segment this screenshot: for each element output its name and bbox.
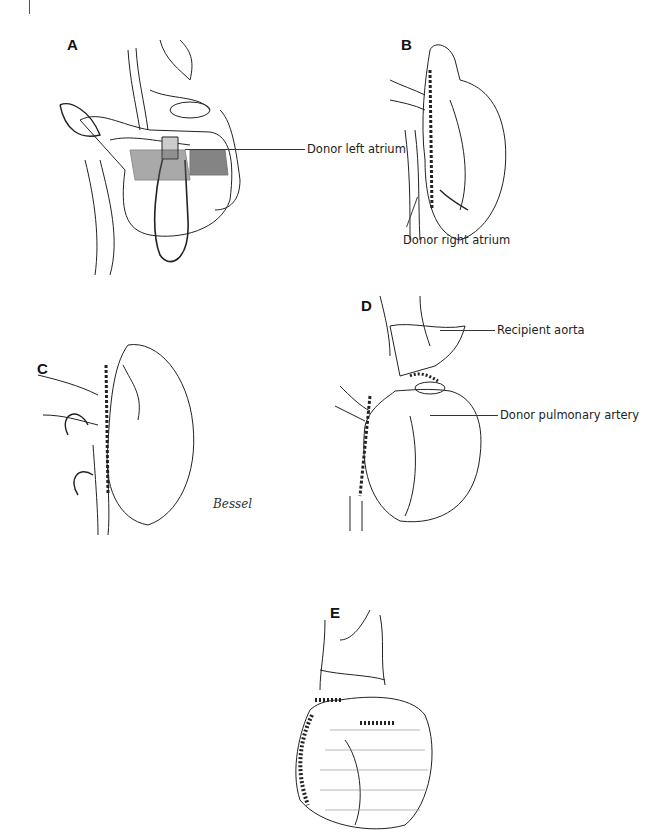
- leader-line-donor-pulmonary-artery: [430, 415, 498, 416]
- artist-signature: Bessel: [213, 497, 252, 511]
- label-recipient-aorta: Recipient aorta: [497, 323, 584, 337]
- heart-illustration-e: [280, 600, 440, 835]
- heart-illustration-c: [38, 325, 218, 535]
- page-header-rule: [29, 0, 30, 14]
- label-donor-right-atrium: Donor right atrium: [403, 233, 510, 247]
- leader-line-recipient-aorta: [440, 330, 495, 331]
- heart-illustration-a: [40, 40, 310, 275]
- label-donor-pulmonary-artery: Donor pulmonary artery: [500, 408, 639, 422]
- leader-line-donor-left-atrium: [185, 149, 305, 150]
- heart-illustration-d: [320, 296, 495, 531]
